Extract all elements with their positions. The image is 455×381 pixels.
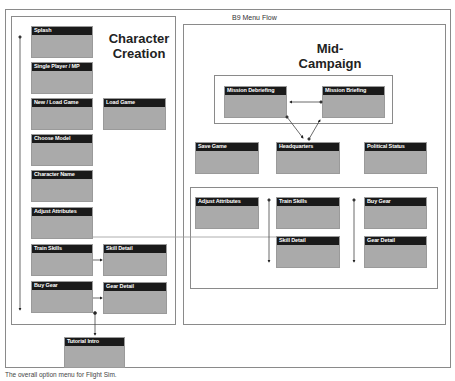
node-adjust-attributes-mc-label: Adjust Attributes	[196, 198, 258, 206]
node-political-status[interactable]: Political Status	[364, 142, 427, 174]
node-buy-gear-mc[interactable]: Buy Gear	[364, 197, 427, 229]
node-mission-debriefing[interactable]: Mission Debriefing	[224, 86, 287, 118]
node-single-player-mp[interactable]: Single Player / MP	[31, 62, 93, 94]
node-mission-debriefing-label: Mission Debriefing	[225, 87, 286, 95]
node-skill-detail-cc-label: Skill Detail	[104, 245, 166, 253]
node-political-status-label: Political Status	[365, 143, 426, 151]
node-adjust-attributes-mc[interactable]: Adjust Attributes	[195, 197, 259, 229]
node-save-game-label: Save Game	[196, 143, 258, 151]
node-adjust-attributes-cc-label: Adjust Attributes	[32, 208, 92, 216]
node-choose-model-label: Choose Model	[32, 135, 92, 143]
node-train-skills-cc[interactable]: Train Skills	[31, 244, 93, 276]
mid-campaign-title-line1: Mid-	[285, 41, 375, 56]
node-tutorial-intro-label: Tutorial Intro	[65, 338, 124, 346]
node-skill-detail-mc-label: Skill Detail	[277, 237, 339, 245]
node-gear-detail-cc-label: Gear Detail	[104, 283, 166, 291]
node-buy-gear-mc-label: Buy Gear	[365, 198, 426, 206]
node-tutorial-intro[interactable]: Tutorial Intro	[64, 337, 125, 368]
node-gear-detail-mc[interactable]: Gear Detail	[364, 236, 427, 268]
node-buy-gear-cc-label: Buy Gear	[32, 282, 92, 290]
node-train-skills-mc[interactable]: Train Skills	[276, 197, 340, 229]
node-adjust-attributes-cc[interactable]: Adjust Attributes	[31, 207, 93, 239]
character-creation-title-line1: Character	[104, 31, 174, 46]
node-new-load-game[interactable]: New / Load Game	[31, 98, 93, 130]
node-load-game-label: Load Game	[104, 99, 165, 107]
mid-campaign-title: Mid- Campaign	[285, 41, 375, 71]
node-character-name-label: Character Name	[32, 171, 92, 179]
character-creation-title-line2: Creation	[104, 46, 174, 61]
node-gear-detail-mc-label: Gear Detail	[365, 237, 426, 245]
node-headquarters-label: Headquarters	[277, 143, 339, 151]
node-gear-detail-cc[interactable]: Gear Detail	[103, 282, 167, 314]
node-skill-detail-cc[interactable]: Skill Detail	[103, 244, 167, 276]
node-single-player-mp-label: Single Player / MP	[32, 63, 92, 71]
mid-campaign-title-line2: Campaign	[285, 56, 375, 71]
node-save-game[interactable]: Save Game	[195, 142, 259, 174]
node-train-skills-mc-label: Train Skills	[277, 198, 339, 206]
node-choose-model[interactable]: Choose Model	[31, 134, 93, 166]
node-splash[interactable]: Splash	[31, 26, 93, 58]
node-load-game[interactable]: Load Game	[103, 98, 166, 130]
document-title: B9 Menu Flow	[232, 14, 277, 21]
character-creation-title: Character Creation	[104, 31, 174, 61]
node-buy-gear-cc[interactable]: Buy Gear	[31, 281, 93, 313]
node-new-load-game-label: New / Load Game	[32, 99, 92, 107]
node-splash-label: Splash	[32, 27, 92, 35]
node-mission-briefing-label: Mission Briefing	[323, 87, 384, 95]
node-character-name[interactable]: Character Name	[31, 170, 93, 202]
node-mission-briefing[interactable]: Mission Briefing	[322, 86, 385, 118]
node-train-skills-cc-label: Train Skills	[32, 245, 92, 253]
node-skill-detail-mc[interactable]: Skill Detail	[276, 236, 340, 268]
node-headquarters[interactable]: Headquarters	[276, 142, 340, 174]
document-caption: The overall option menu for Flight Sim.	[5, 371, 117, 378]
